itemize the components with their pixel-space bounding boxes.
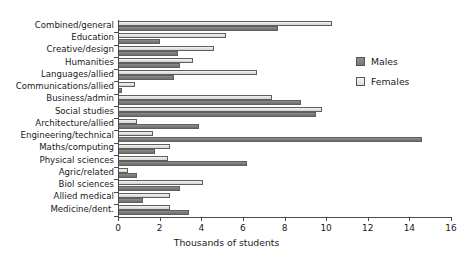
x-axis-title: Thousands of students (0, 237, 453, 248)
x-axis-tick-label: 10 (320, 223, 331, 233)
x-axis-tick-label: 0 (115, 223, 121, 233)
legend-item-males: Males (356, 56, 409, 67)
legend-label-males: Males (371, 56, 398, 67)
y-axis-label: Communications/allied (16, 82, 114, 91)
legend-item-females: Females (356, 76, 409, 87)
bar-males (118, 100, 301, 105)
legend-swatch-females-icon (356, 77, 365, 86)
x-axis-tick (409, 217, 410, 221)
bar-males (118, 26, 278, 31)
x-axis-tick (451, 217, 452, 221)
x-axis-tick-label: 4 (198, 223, 204, 233)
y-axis-line (118, 20, 119, 217)
y-axis-label: Agric/related (59, 168, 114, 177)
x-axis-tick (201, 217, 202, 221)
bar-males (118, 198, 143, 203)
x-axis-tick (368, 217, 369, 221)
y-axis-label: Creative/design (47, 45, 114, 54)
bar-males (118, 210, 189, 215)
y-axis-label: Medicine/dent. (50, 205, 114, 214)
x-axis-tick (285, 217, 286, 221)
bar-males (118, 137, 422, 142)
x-axis-tick-label: 14 (404, 223, 415, 233)
bar-males (118, 112, 316, 117)
bar-males (118, 186, 180, 191)
y-axis-label: Languages/allied (41, 70, 114, 79)
x-axis-tick-label: 8 (282, 223, 288, 233)
y-axis-label: Physical sciences (39, 156, 114, 165)
x-axis-tick-label: 16 (445, 223, 456, 233)
y-axis-label: Business/admin (46, 94, 114, 103)
x-axis-tick (326, 217, 327, 221)
y-axis-label: Biol sciences (59, 180, 114, 189)
bar-males (118, 161, 247, 166)
x-axis-tick-label: 2 (157, 223, 163, 233)
y-axis-label: Architecture/allied (35, 119, 114, 128)
y-axis-label: Allied medical (54, 192, 114, 201)
bar-males (118, 39, 160, 44)
x-axis-tick-label: 12 (362, 223, 373, 233)
bar-males (118, 51, 178, 56)
x-axis-tick (118, 217, 119, 221)
y-axis-label: Maths/computing (39, 143, 114, 152)
bar-males (118, 173, 137, 178)
bar-males (118, 75, 174, 80)
y-axis-label: Education (71, 33, 114, 42)
legend-label-females: Females (371, 76, 409, 87)
x-axis-tick-label: 6 (240, 223, 246, 233)
plot-area (118, 20, 451, 216)
y-axis-label: Engineering/technical (21, 131, 115, 140)
y-axis-label: Combined/general (35, 21, 114, 30)
bar-males (118, 124, 199, 129)
legend-swatch-males-icon (356, 57, 365, 66)
x-axis-tick (243, 217, 244, 221)
chart-legend: Males Females (356, 56, 409, 96)
bar-males (118, 63, 180, 68)
x-axis-tick (160, 217, 161, 221)
y-axis-label: Humanities (65, 58, 114, 67)
y-axis-label: Social studies (55, 107, 114, 116)
bar-males (118, 149, 155, 154)
